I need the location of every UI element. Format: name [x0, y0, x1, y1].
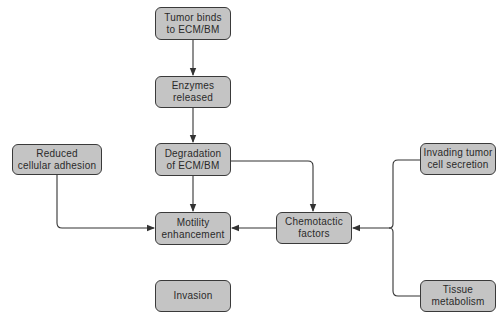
node-label: Degradation of ECM/BM — [165, 148, 222, 172]
node-label: Invading tumor cell secretion — [424, 147, 493, 171]
node-label: Reduced cellular adhesion — [18, 148, 96, 172]
node-enzymes-released: Enzymes released — [155, 76, 231, 108]
node-invading-secretion: Invading tumor cell secretion — [420, 143, 496, 175]
node-degradation: Degradation of ECM/BM — [155, 143, 231, 176]
node-label: Tumor binds to ECM/BM — [164, 12, 221, 36]
node-tissue-metabolism: Tissue metabolism — [420, 280, 496, 312]
edge-degradation-to-chemotactic — [230, 161, 313, 211]
edge-reduced-to-motility — [57, 174, 154, 228]
node-label: Tissue metabolism — [431, 284, 484, 308]
node-label: Invasion — [174, 290, 213, 302]
node-chemotactic-factors: Chemotactic factors — [276, 212, 352, 244]
node-tumor-binds: Tumor binds to ECM/BM — [155, 7, 231, 40]
node-label: Motility enhancement — [162, 217, 225, 241]
brace-connector — [389, 160, 420, 296]
node-invasion: Invasion — [155, 280, 231, 312]
node-label: Enzymes released — [172, 80, 215, 104]
node-reduced-adhesion: Reduced cellular adhesion — [12, 144, 102, 175]
node-motility-enhancement: Motility enhancement — [155, 212, 231, 245]
node-label: Chemotactic factors — [285, 216, 343, 240]
